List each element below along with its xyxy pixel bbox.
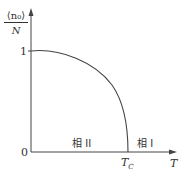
phase-2-label: 相 II bbox=[72, 139, 91, 149]
origin-label: 0 bbox=[21, 147, 28, 158]
y-axis-arrow-icon bbox=[29, 8, 34, 16]
tc-sub: C bbox=[128, 163, 133, 171]
condensate-curve bbox=[31, 51, 128, 152]
x-axis-label: T bbox=[170, 158, 177, 169]
phase-1-label: 相 I bbox=[137, 139, 153, 149]
y-tick-1: 1 bbox=[20, 46, 27, 57]
x-axis-arrow-icon bbox=[169, 150, 177, 155]
y-axis-label: ⟨n₀⟩ N bbox=[4, 10, 28, 36]
y-label-numerator: ⟨n₀⟩ bbox=[4, 10, 28, 23]
y-label-denominator: N bbox=[4, 23, 28, 36]
tc-label: TC bbox=[121, 157, 134, 171]
